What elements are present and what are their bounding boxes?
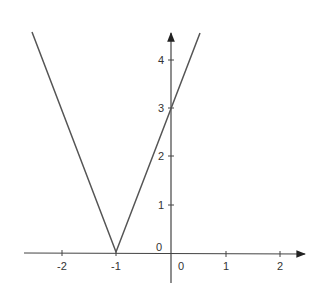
y-tick-label: 4 (158, 54, 164, 66)
y-tick-label: 1 (158, 199, 164, 211)
function-plot: -2 -1 0 1 2 0 1 2 3 4 (0, 0, 318, 296)
x-tick-label: 1 (223, 260, 229, 272)
function-curve (32, 32, 200, 252)
x-tick-label: 2 (277, 260, 283, 272)
y-tick-label: 2 (158, 150, 164, 162)
x-tick-label: -2 (57, 260, 67, 272)
y-tick-label: 3 (158, 102, 164, 114)
y-tick-label: 0 (156, 241, 162, 253)
x-tick-label: 0 (178, 260, 184, 272)
x-axis (24, 253, 305, 254)
x-tick-label: -1 (111, 260, 121, 272)
